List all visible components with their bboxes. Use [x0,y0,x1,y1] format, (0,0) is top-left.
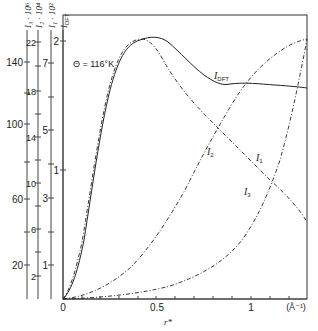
x-tick-0: 0 [60,302,66,313]
i3-axis-label: I₃ · 10⁶ [23,3,33,29]
intensity-chart: 140 100 60 20 I₃ · 10⁶ 22 18 14 10 6 2 I… [0,0,318,331]
i2-axis-label: I₂ · 10⁴ [34,3,44,29]
x-tick-1: 1 [248,302,254,313]
i2-tick-22: 22 [26,38,36,48]
i2-tick-18: 18 [26,87,36,97]
curve-i3 [63,39,307,299]
curve-i1 [63,39,307,299]
curve-label-i2: I2 [206,146,214,158]
i1-axis-label: I₁ · 10² [47,3,57,29]
i2-tick-10: 10 [26,179,36,189]
i2-axis: 22 18 14 10 6 2 I₂ · 10⁴ [26,3,44,299]
i3-tick-140: 140 [6,57,23,68]
i1-tick-3: 3 [42,193,48,204]
idft-axis-label: IDFT [59,13,70,29]
i3-tick-60: 60 [12,194,24,205]
i1-tick-5: 5 [42,125,48,136]
curve-label-i1: I1 [255,152,263,164]
i1-tick-1: 1 [42,260,48,271]
x-axis-label: r* [164,317,173,327]
idft-tick-2: 2 [53,36,59,47]
i2-tick-14: 14 [26,133,36,143]
i3-tick-100: 100 [6,119,23,130]
i2-tick-6: 6 [31,225,36,235]
curve-i2 [63,39,307,299]
curve-label-i3: I3 [243,186,251,198]
curve-idft [63,37,307,299]
x-unit-label: (Å⁻¹) [286,302,306,312]
i1-axis: 7 5 3 1 I₁ · 10² [42,3,57,299]
x-tick-0-5: 0.5 [150,302,164,313]
curve-label-idft: IDFT [213,70,229,82]
i1-tick-7: 7 [42,58,48,69]
i2-tick-2: 2 [31,272,36,282]
i3-tick-20: 20 [12,260,24,271]
temperature-annotation: Θ = 116°K [73,59,114,69]
idft-tick-1: 1 [53,165,59,176]
idft-axis: 2 1 IDFT [53,13,70,299]
x-axis: 0 0.5 1 (Å⁻¹) r* [60,296,307,327]
